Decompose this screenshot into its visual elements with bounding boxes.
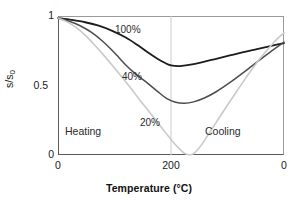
series-label-100: 100% (115, 24, 141, 35)
y-axis-title-subscript: 0 (8, 70, 17, 74)
x-tick-label-right-0: 0 (264, 160, 298, 171)
y-tick-label-0-5: 0.5 (22, 80, 48, 91)
cooling-label: Cooling (205, 126, 241, 137)
chart-figure: 1 0.5 0 0 200 0 Temperature (°C) s/s0 10… (0, 0, 298, 202)
series-label-20: 20% (140, 117, 160, 128)
y-axis-title: s/s0 (3, 55, 17, 103)
y-tick-label-0: 0 (28, 149, 54, 160)
x-tick-label-left-0: 0 (38, 160, 78, 171)
x-tick-label-200: 200 (151, 160, 191, 171)
x-axis-title: Temperature (°C) (0, 182, 298, 194)
y-tick-label-1: 1 (28, 10, 54, 21)
heating-label: Heating (65, 126, 101, 137)
chart-curves (0, 0, 298, 202)
y-axis-title-main: s/s (3, 75, 15, 88)
series-label-40: 40% (122, 71, 142, 82)
